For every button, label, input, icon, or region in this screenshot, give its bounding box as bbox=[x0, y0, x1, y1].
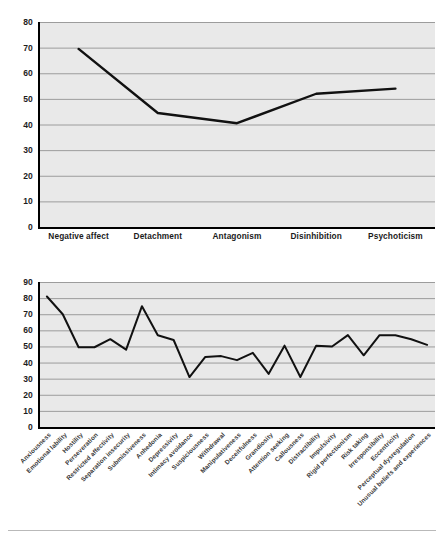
y-tick-label: 40 bbox=[23, 120, 33, 130]
y-tick-label: 80 bbox=[23, 293, 33, 303]
y-tick-label: 20 bbox=[23, 390, 33, 400]
y-axis-line-facets bbox=[38, 282, 40, 427]
x-tick-label: Disinhibition bbox=[290, 231, 342, 241]
y-tick-label: 50 bbox=[23, 94, 33, 104]
y-axis-labels-domains: 01020304050607080 bbox=[0, 6, 38, 256]
figure-page: 01020304050607080 Negative affectDetachm… bbox=[0, 0, 444, 539]
y-tick-label: 30 bbox=[23, 374, 33, 384]
y-tick-label: 60 bbox=[23, 68, 33, 78]
line-series-facets bbox=[39, 282, 435, 427]
y-tick-label: 80 bbox=[23, 17, 33, 27]
x-tick-label: Detachment bbox=[134, 231, 183, 241]
y-tick-label: 10 bbox=[23, 196, 33, 206]
chart-pid5-domains: 01020304050607080 Negative affectDetachm… bbox=[0, 6, 444, 256]
x-tick-label: Antagonism bbox=[213, 231, 262, 241]
x-axis-labels-domains: Negative affectDetachmentAntagonismDisin… bbox=[0, 231, 444, 247]
y-tick-label: 90 bbox=[23, 277, 33, 287]
y-tick-label: 40 bbox=[23, 358, 33, 368]
y-tick-label: 30 bbox=[23, 145, 33, 155]
plot-area-domains bbox=[39, 22, 435, 227]
x-axis-labels-facets: AnxiousnessEmotional labilityHostilityPe… bbox=[0, 431, 444, 527]
y-tick-label: 60 bbox=[23, 325, 33, 335]
plot-area-facets bbox=[39, 282, 435, 427]
x-tick-label: Negative affect bbox=[48, 231, 109, 241]
y-tick-label: 50 bbox=[23, 341, 33, 351]
y-tick-label: 70 bbox=[23, 43, 33, 53]
x-tick-label: Psychoticism bbox=[368, 231, 423, 241]
line-series-domains bbox=[39, 22, 435, 227]
y-axis-line-domains bbox=[38, 22, 40, 227]
x-axis-line-domains bbox=[38, 227, 435, 229]
y-tick-label: 70 bbox=[23, 309, 33, 319]
chart-pid5-facets: 0102030405060708090 AnxiousnessEmotional… bbox=[0, 272, 444, 530]
y-tick-label: 10 bbox=[23, 406, 33, 416]
x-axis-line-facets bbox=[38, 427, 435, 429]
page-bottom-rule bbox=[8, 530, 436, 531]
y-tick-label: 20 bbox=[23, 171, 33, 181]
